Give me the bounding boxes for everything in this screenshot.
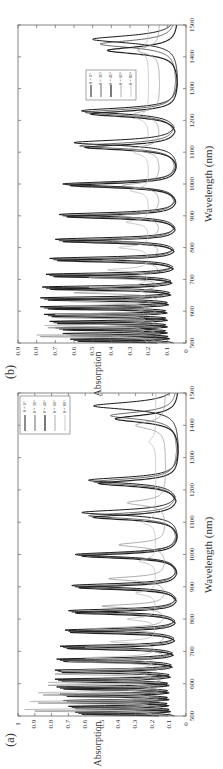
- x-tick-label: 1200: [188, 113, 196, 128]
- x-tick-label: 1000: [188, 177, 196, 192]
- x-tick-label: 800: [188, 242, 196, 253]
- y-tick-label: 1: [14, 722, 22, 726]
- x-axis-label-a: Wavelength (nm): [202, 516, 215, 593]
- y-tick-label: 0.7: [64, 719, 72, 728]
- y-tick-label: 0.1: [165, 719, 173, 728]
- x-tick-label: 800: [188, 613, 196, 624]
- y-tick-label: 0.6: [81, 719, 89, 728]
- y-tick-label: 0.8: [32, 346, 40, 355]
- y-tick-label: 0.2: [144, 346, 152, 355]
- x-tick-label: 1400: [188, 49, 196, 64]
- x-tick-label: 1400: [188, 418, 196, 433]
- legend-label: θ = 60°: [118, 72, 123, 85]
- legend-label: θ = 0°: [22, 401, 27, 412]
- legend-label: θ = 80°: [62, 400, 67, 413]
- x-tick-label: 900: [188, 210, 196, 221]
- x-tick-label: 700: [188, 274, 196, 285]
- x-axis-label-b: Wavelength (nm): [202, 145, 215, 222]
- y-axis-label-b: Absorption: [92, 352, 103, 397]
- panel-label-b: (b): [3, 365, 17, 379]
- y-tick-label: 0.7: [51, 346, 59, 355]
- x-tick-label: 1300: [188, 81, 196, 96]
- legend-b: θ = 0°θ = 30°θ = 40°θ = 60°θ = 80°: [86, 70, 136, 100]
- panel-label-a: (a): [3, 733, 17, 746]
- x-tick-label: 500: [188, 710, 196, 721]
- x-tick-label: 1100: [188, 515, 196, 529]
- y-tick-label: 0.9: [14, 346, 22, 355]
- y-tick-label: 0.3: [131, 719, 139, 728]
- legend-a: θ = 0°θ = 30°θ = 40°θ = 60°θ = 80°: [20, 396, 70, 434]
- x-tick-label: 1500: [188, 386, 196, 401]
- y-tick-label: 0.4: [107, 346, 115, 355]
- x-tick-label: 1100: [188, 145, 196, 159]
- legend-label: θ = 80°: [128, 72, 133, 85]
- y-tick-label: 0.8: [47, 719, 55, 728]
- y-tick-label: 0.4: [114, 719, 122, 728]
- x-tick-label: 500: [188, 337, 196, 348]
- y-tick-label: 0.6: [70, 346, 78, 355]
- x-tick-label: 900: [188, 581, 196, 592]
- y-tick-label: 0.2: [148, 719, 156, 728]
- x-tick-label: 1300: [188, 450, 196, 465]
- y-tick-label: 0.9: [30, 719, 38, 728]
- legend-label: θ = 60°: [52, 400, 57, 413]
- x-tick-label: 1500: [188, 18, 196, 33]
- y-tick-label: 0: [182, 722, 190, 726]
- series-curves-a: [25, 393, 179, 716]
- y-tick-label: 0.1: [163, 346, 171, 355]
- legend-label: θ = 30°: [32, 400, 37, 413]
- panel-a: 5006007008009001000110012001300140015000…: [3, 386, 215, 767]
- x-tick-label: 600: [188, 678, 196, 689]
- legend-label: θ = 30°: [98, 72, 103, 85]
- legend-label: θ = 40°: [42, 400, 47, 413]
- y-tick-label: 0: [182, 349, 190, 353]
- y-tick-label: 0.3: [126, 346, 134, 355]
- legend-label: θ = 40°: [108, 72, 113, 85]
- panel-b: 5006007008009001000110012001300140015000…: [3, 18, 215, 397]
- y-axis-label-a: Absorption: [92, 722, 103, 767]
- x-tick-label: 700: [188, 646, 196, 657]
- x-tick-label: 1000: [188, 547, 196, 562]
- x-tick-label: 1200: [188, 482, 196, 497]
- x-tick-label: 600: [188, 305, 196, 316]
- figure-canvas: 5006007008009001000110012001300140015000…: [0, 0, 223, 769]
- figure: 5006007008009001000110012001300140015000…: [0, 0, 223, 769]
- legend-label: θ = 0°: [88, 73, 93, 84]
